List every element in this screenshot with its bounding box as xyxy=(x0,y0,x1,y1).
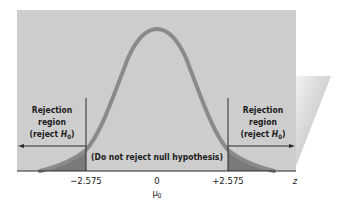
left-critical-value: −2.575 xyxy=(70,175,102,186)
left-region-label-1: Rejection xyxy=(32,105,72,115)
right-critical-value: +2.575 xyxy=(212,175,244,186)
mean-label: μ0 xyxy=(152,187,161,200)
hypothesis-test-diagram: Rejection region (reject H0) Rejection r… xyxy=(0,0,338,208)
left-region-label-2: region xyxy=(38,117,66,127)
center-value: 0 xyxy=(154,175,159,186)
acceptance-region-label: (Do not reject null hypothesis) xyxy=(91,152,223,162)
axis-variable-label: z xyxy=(292,175,298,186)
right-region-label-2: region xyxy=(249,117,277,127)
side-wedge xyxy=(296,76,331,166)
chart-panel xyxy=(17,10,296,171)
right-region-label-1: Rejection xyxy=(243,105,283,115)
